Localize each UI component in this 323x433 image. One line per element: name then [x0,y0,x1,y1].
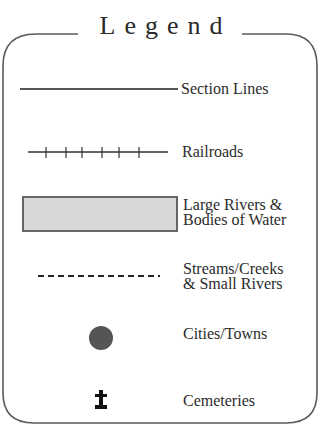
water-body-symbol [23,197,177,231]
label-cemeteries: Cemeteries [183,393,255,408]
label-streams-line1: Streams/Creeks [183,261,283,276]
label-railroads: Railroads [182,144,243,159]
cemetery-icon [95,390,107,409]
label-cities: Cities/Towns [183,326,267,341]
label-streams-line2: & Small Rivers [183,276,283,291]
label-large-rivers-line1: Large Rivers & [183,197,282,212]
label-large-rivers-line2: Bodies of Water [183,212,286,227]
label-section-lines: Section Lines [181,81,269,96]
city-symbol [89,326,113,350]
railroad-symbol [28,147,168,158]
